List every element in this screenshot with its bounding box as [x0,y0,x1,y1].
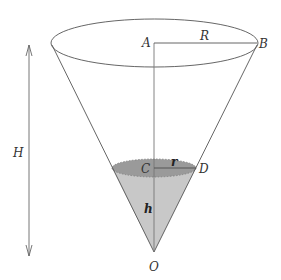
label-B: B [258,37,268,51]
label-R: R [199,29,209,43]
label-O: O [149,260,159,274]
label-A: A [141,36,151,50]
label-C: C [141,162,150,176]
label-h: h [144,202,153,216]
cone-diagram: A R B C r D h O H [0,0,281,280]
label-H: H [12,146,24,160]
label-D: D [198,162,209,176]
height-H-arrow [26,45,32,256]
cone-right-side [154,45,257,252]
cone-left-side [52,45,154,252]
